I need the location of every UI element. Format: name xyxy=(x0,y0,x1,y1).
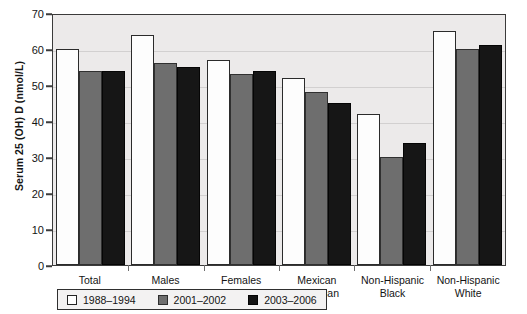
bar xyxy=(479,45,502,265)
legend-swatch-icon xyxy=(67,295,77,305)
legend-item: 1988–1994 xyxy=(67,294,136,306)
y-tick-label: 70 xyxy=(32,8,44,20)
x-tick-label-line: Total xyxy=(52,274,128,287)
x-tick-label-line: Non-Hispanic xyxy=(355,274,431,287)
legend-swatch-icon xyxy=(158,295,168,305)
x-tick-label-line: Black xyxy=(355,287,431,300)
bar-group xyxy=(354,15,429,265)
bar-group xyxy=(204,15,279,265)
bar xyxy=(230,74,253,265)
chart-figure: Serum 25 (OH) D (nmol/L) 010203040506070… xyxy=(0,0,527,314)
x-tick-label-line: Mexican xyxy=(279,274,355,287)
bar-group xyxy=(53,15,128,265)
legend-label: 1988–1994 xyxy=(83,294,136,306)
x-tick-label-line: White xyxy=(430,287,506,300)
bar-group xyxy=(128,15,203,265)
legend-label: 2001–2002 xyxy=(174,294,227,306)
bar xyxy=(380,157,403,265)
bar xyxy=(56,49,79,265)
bar xyxy=(357,114,380,265)
bar xyxy=(79,71,102,265)
bar xyxy=(154,63,177,265)
bar xyxy=(253,71,276,265)
y-tick-label: 20 xyxy=(32,188,44,200)
bar xyxy=(282,78,305,265)
x-tick-label: Non-HispanicWhite xyxy=(430,268,506,312)
bar-groups xyxy=(53,15,505,265)
x-tick-label-line: Males xyxy=(128,274,204,287)
bar xyxy=(403,143,426,265)
y-axis: 010203040506070 xyxy=(0,14,52,266)
bar-group xyxy=(430,15,505,265)
bar xyxy=(131,35,154,265)
bar xyxy=(456,49,479,265)
plot-area xyxy=(52,14,506,266)
bar xyxy=(328,103,351,265)
bar xyxy=(305,92,328,265)
y-tick-label: 30 xyxy=(32,152,44,164)
legend-label: 2003–2006 xyxy=(264,294,317,306)
x-tick-label-line: Non-Hispanic xyxy=(430,274,506,287)
chart-legend: 1988–19942001–20022003–2006 xyxy=(57,289,327,310)
bar xyxy=(102,71,125,265)
legend-item: 2001–2002 xyxy=(158,294,227,306)
bar xyxy=(433,31,456,265)
y-tick-label: 10 xyxy=(32,224,44,236)
bar xyxy=(177,67,200,265)
bar-group xyxy=(279,15,354,265)
x-tick-label-line: Females xyxy=(203,274,279,287)
bar xyxy=(207,60,230,265)
legend-swatch-icon xyxy=(248,295,258,305)
y-tick-label: 60 xyxy=(32,44,44,56)
legend-item: 2003–2006 xyxy=(248,294,317,306)
y-tick-label: 0 xyxy=(38,260,44,272)
x-tick-label: Non-HispanicBlack xyxy=(355,268,431,312)
y-tick-label: 40 xyxy=(32,116,44,128)
y-tick-label: 50 xyxy=(32,80,44,92)
